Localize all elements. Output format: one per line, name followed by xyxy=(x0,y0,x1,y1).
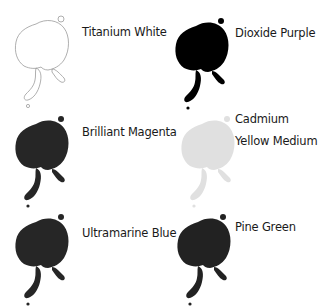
paint-blob-icon xyxy=(14,212,74,308)
paint-blob-icon xyxy=(180,114,240,210)
swatch-label: Yellow Medium xyxy=(235,130,317,152)
swatch-label: Brilliant Magenta xyxy=(82,121,177,143)
paint-blob-icon xyxy=(14,114,74,210)
swatch-label: Titanium White xyxy=(82,21,167,43)
swatch-label: Ultramarine Blue xyxy=(82,222,176,244)
paint-blob-icon xyxy=(14,14,74,110)
paint-blob-icon xyxy=(176,212,236,308)
swatch-label: Cadmium xyxy=(235,108,289,130)
swatch-label: Dioxide Purple xyxy=(235,22,315,44)
paint-blob-icon xyxy=(174,16,234,112)
swatch-label: Pine Green xyxy=(235,216,296,238)
